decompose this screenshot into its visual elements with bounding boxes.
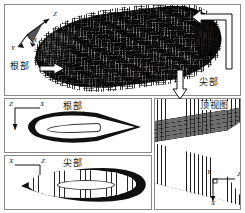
root-arrow-icon	[39, 62, 65, 75]
axis-label-y-root: Y	[13, 125, 17, 132]
tip-annotation-label: 尖部	[199, 78, 218, 87]
axis-label-z-tip: Z	[41, 158, 45, 165]
axis-label-x-root: X	[40, 101, 44, 108]
axis-label-y-top: Y	[207, 169, 211, 176]
axis-label-x-tip: X	[9, 158, 13, 165]
top-view-mesh-graphic	[154, 101, 241, 179]
axis-label-z-top: Z	[237, 171, 241, 178]
top-view-link-arrow-icon	[172, 69, 188, 100]
root-annotation-label: 根部	[10, 62, 29, 71]
axis-label-y-main: Y	[11, 45, 15, 52]
panel-tip-section: X Z Y 尖部	[4, 155, 152, 210]
axis-label-x-main: X	[33, 37, 37, 44]
tip-airfoil-graphic	[19, 166, 147, 202]
tip-bracket-arrow-icon	[191, 9, 237, 71]
root-airfoil-graphic	[23, 109, 145, 145]
panel-3d-blade-mesh: Z X Y 根部 尖部	[4, 4, 241, 96]
axis-label-z-main: Z	[53, 11, 57, 18]
figure-root: Z X Y 根部 尖部 Z	[0, 0, 245, 213]
tip-airfoil-core-profile	[57, 180, 115, 190]
panel-root-section: Z X Y 根部	[4, 98, 152, 153]
axis-label-x-top: X	[211, 200, 215, 207]
top-view-title: 顶视图	[199, 101, 230, 110]
panel-top-view: 顶视图 Y Z X	[154, 98, 241, 210]
axis-triad-main	[13, 13, 59, 55]
axis-label-z-root: Z	[9, 101, 13, 108]
